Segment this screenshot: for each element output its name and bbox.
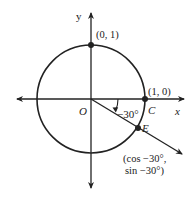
point-top-label: (0, 1)	[96, 29, 119, 41]
x-axis-label: x	[174, 105, 180, 117]
point-C-coord-label: (1, 0)	[148, 86, 171, 98]
point-E-coord-line1: (cos −30°,	[123, 153, 166, 165]
y-axis-label: y	[76, 10, 82, 22]
angle-label: −30°	[117, 108, 139, 120]
point-top	[88, 42, 94, 48]
point-E-coord-line2: sin −30°)	[125, 165, 164, 177]
point-E	[135, 125, 141, 131]
point-C-label: C	[148, 104, 156, 116]
unit-circle-diagram: y x O (0, 1) (1, 0) C E −30° (cos −30°, …	[0, 0, 194, 200]
point-E-label: E	[141, 122, 149, 134]
origin-label: O	[79, 105, 87, 117]
